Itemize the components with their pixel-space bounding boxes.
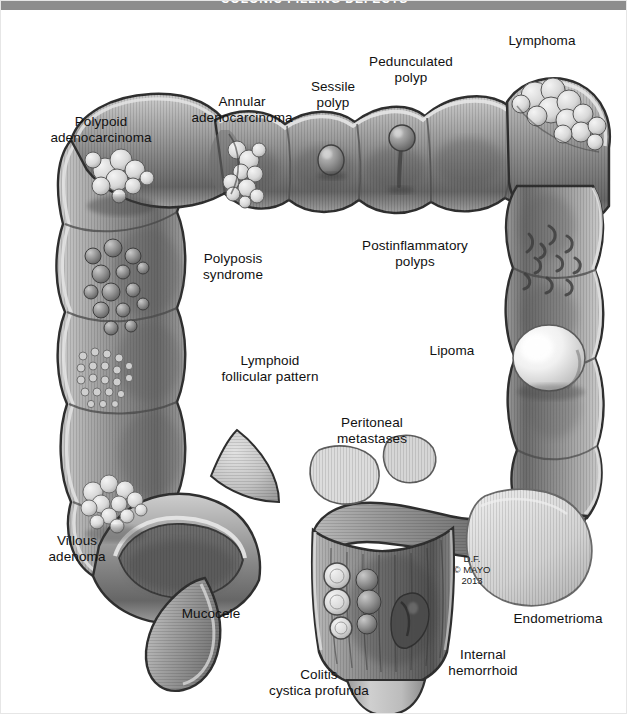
label-postinflammatory-polyps: Postinflammatory polyps (349, 238, 481, 269)
lesion-endometrioma (467, 489, 592, 606)
journal-banner: COLONIC FILLING DEFECTS (1, 1, 627, 10)
label-colitis-cystica-profunda: Colitis cystica profunda (256, 667, 382, 698)
label-endometrioma: Endometrioma (501, 611, 615, 627)
label-internal-hemorrhoid: Internal hemorrhoid (437, 647, 529, 678)
label-villous-adenoma: Villous adenoma (35, 533, 119, 564)
banner-title: COLONIC FILLING DEFECTS (1, 1, 627, 6)
label-pedunculated-polyp: Pedunculated polyp (356, 54, 466, 85)
lesion-lipoma (513, 325, 585, 400)
label-polypoid-adenocarcinoma: Polypoid adenocarcinoma (31, 114, 171, 145)
label-lymphoma: Lymphoma (496, 33, 588, 49)
label-lymphoid-follicular: Lymphoid follicular pattern (207, 353, 333, 384)
label-mucocele: Mucocele (169, 606, 253, 622)
label-polyposis-syndrome: Polyposis syndrome (187, 251, 279, 282)
label-annular-adenocarcinoma: Annular adenocarcinoma (177, 94, 307, 125)
figure-page: COLONIC FILLING DEFECTS (0, 0, 627, 714)
mayo-credit: D.F. © MAYO 2013 (441, 553, 503, 586)
label-peritoneal-metastases: Peritoneal metastases (324, 415, 420, 446)
label-lipoma: Lipoma (421, 343, 483, 359)
